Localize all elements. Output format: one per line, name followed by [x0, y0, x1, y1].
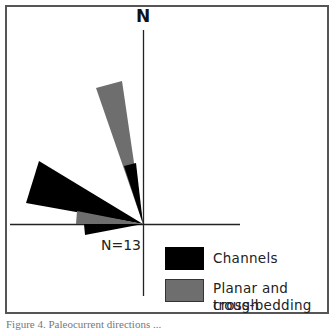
petal-channels-w [84, 224, 143, 235]
legend-label-channels: Channels [213, 250, 278, 267]
sample-size-label: N=13 [101, 237, 141, 253]
north-label: N [136, 6, 150, 26]
legend-swatch-cross-bedding [165, 279, 204, 302]
figure-caption: Figure 4. Paleocurrent directions ... [6, 318, 161, 330]
legend-label-cross-bedding-line2: cross-bedding [213, 297, 312, 314]
legend-swatch-channels [165, 247, 204, 270]
